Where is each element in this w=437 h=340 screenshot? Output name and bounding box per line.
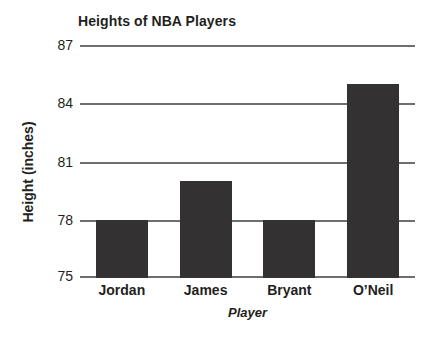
chart-figure: Heights of NBA Players Height (inches) 8…	[0, 0, 437, 340]
bar-series: Jordan James Bryant O’Neil	[80, 45, 415, 278]
plot-area: 87 84 81 78 75 Jordan James Bry	[80, 45, 415, 278]
x-tick-label-oneil: O’Neil	[331, 282, 415, 298]
bar-james[interactable]	[180, 181, 232, 278]
bar-slot-oneil: O’Neil	[331, 45, 415, 278]
bar-oneil[interactable]	[347, 84, 399, 278]
x-tick-label-jordan: Jordan	[80, 282, 164, 298]
bar-slot-jordan: Jordan	[80, 45, 164, 278]
y-tick-label-78: 78	[57, 212, 73, 228]
y-tick-label-84: 84	[57, 95, 73, 111]
x-tick-label-james: James	[164, 282, 248, 298]
bar-bryant[interactable]	[263, 220, 315, 278]
y-axis-title: Height (inches)	[20, 72, 36, 272]
bar-jordan[interactable]	[96, 220, 148, 278]
bar-slot-bryant: Bryant	[248, 45, 332, 278]
y-tick-label-87: 87	[57, 37, 73, 53]
x-axis-title: Player	[80, 305, 415, 320]
y-axis-title-container: Height (inches)	[0, 0, 40, 340]
bar-slot-james: James	[164, 45, 248, 278]
y-tick-label-81: 81	[57, 154, 73, 170]
chart-title: Heights of NBA Players	[78, 13, 236, 29]
y-tick-label-75: 75	[57, 268, 73, 284]
x-tick-label-bryant: Bryant	[248, 282, 332, 298]
